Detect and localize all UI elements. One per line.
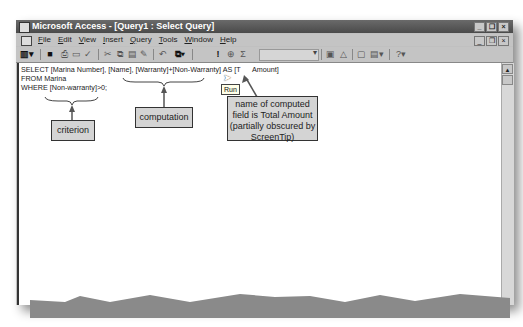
- callout-computation: computation: [135, 107, 193, 128]
- callout-line: ScreenTip): [228, 132, 317, 143]
- callout-line: field is Total Amount: [228, 110, 317, 121]
- callout-computed-field-name: name of computed field is Total Amount (…: [227, 96, 318, 141]
- torn-edge-decoration: [30, 290, 510, 318]
- callout-line: (partially obscured by: [228, 121, 317, 132]
- annotation-lines: [0, 0, 523, 327]
- callout-line: name of computed: [228, 99, 317, 110]
- callout-criterion: criterion: [51, 120, 95, 141]
